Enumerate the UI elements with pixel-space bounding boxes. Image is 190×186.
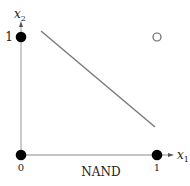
x-tick-label: 1 — [154, 162, 160, 173]
point-1-1-open — [153, 33, 161, 41]
point-0-1-filled — [16, 32, 27, 43]
nand-diagram: x2 1 0 1 x1 NAND — [0, 0, 190, 186]
x-axis-arrow-icon — [168, 153, 174, 157]
decision-boundary-line — [41, 31, 155, 127]
y-axis-label: x2 — [14, 7, 26, 23]
x-axis-label: x1 — [177, 148, 189, 164]
origin-label: 0 — [18, 162, 24, 173]
y-tick-label: 1 — [5, 30, 13, 44]
point-0-0-filled — [16, 150, 27, 161]
diagram-title: NAND — [81, 165, 120, 179]
point-1-0-filled — [152, 150, 163, 161]
